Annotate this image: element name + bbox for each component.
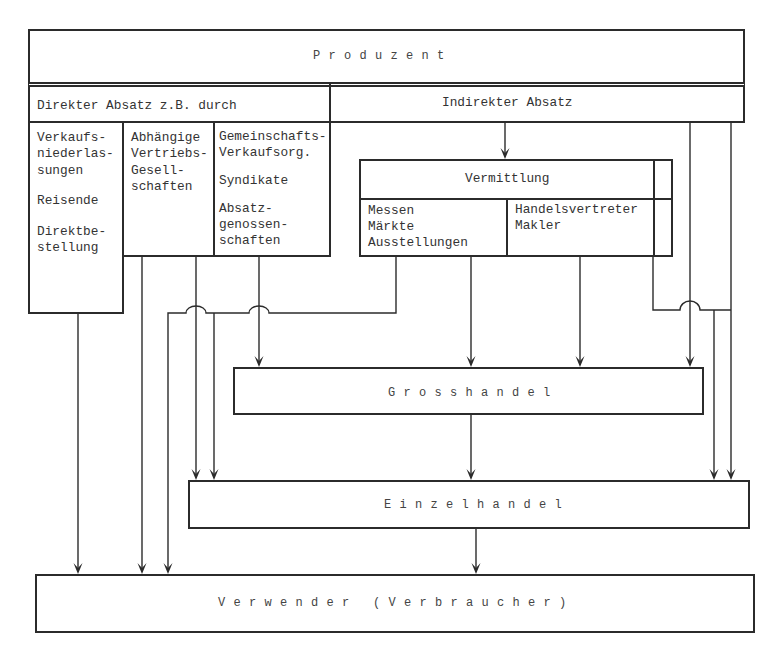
- direct-column-joint-sales-orgs: Gemeinschafts- Verkaufsorg. Syndikate Ab…: [213, 121, 331, 257]
- mediation-events-cell: Messen Märkte Ausstellungen: [361, 200, 508, 255]
- text-group: Direktbe- stellung: [37, 224, 122, 257]
- text-group: Gemeinschafts- Verkaufsorg.: [219, 129, 329, 162]
- arrowhead-icon: [138, 563, 147, 574]
- mediation-side-column: [653, 161, 673, 255]
- wholesale-box: Grosshandel: [233, 367, 704, 415]
- mediation-label: Vermittlung: [465, 171, 549, 187]
- text-group: Abhängige Vertriebs- Gesell- schaften: [131, 130, 213, 195]
- arrowhead-icon: [210, 469, 219, 480]
- text-line: sungen: [37, 163, 122, 179]
- text-line: schaften: [131, 179, 213, 195]
- text-line: Absatz-: [219, 201, 329, 217]
- mediation-agents-cell: Handelsvertreter Makler: [508, 200, 653, 255]
- text-line: genossen-: [219, 217, 329, 233]
- direct-column-sales-branches: Verkaufs- niederlas- sungen Reisende Dir…: [28, 121, 124, 314]
- text-line: Handelsvertreter: [515, 202, 653, 218]
- text-line: Syndikate: [219, 173, 329, 189]
- retail-box: Einzelhandel: [188, 480, 750, 529]
- arrowhead-icon: [74, 563, 83, 574]
- arrowhead-icon: [727, 469, 736, 480]
- text-line: Verkaufs-: [37, 130, 122, 146]
- text-line: Verkaufsorg.: [219, 145, 329, 161]
- direct-column-dependent-companies: Abhängige Vertriebs- Gesell- schaften: [122, 121, 215, 257]
- arrowhead-icon: [686, 356, 695, 367]
- text-group: Reisende: [37, 193, 122, 209]
- direct-sales-label: Direkter Absatz z.B. durch: [37, 98, 237, 114]
- text-line: stellung: [37, 240, 122, 256]
- text-group: Absatz- genossen- schaften: [219, 201, 329, 250]
- arrowhead-icon: [192, 469, 201, 480]
- arrowhead-icon: [710, 469, 719, 480]
- text-line: niederlas-: [37, 146, 122, 162]
- arrowhead-icon: [467, 469, 476, 480]
- arrowhead-icon: [164, 563, 173, 574]
- mediation-box: Vermittlung Messen Märkte Ausstellungen …: [359, 159, 673, 257]
- text-line: Ausstellungen: [368, 235, 506, 251]
- text-line: Reisende: [37, 193, 122, 209]
- text-line: Abhängige: [131, 130, 213, 146]
- arrowhead-icon: [467, 356, 476, 367]
- text-line: schaften: [219, 233, 329, 249]
- wholesale-label: Grosshandel: [388, 385, 559, 401]
- consumer-box: Verwender (Verbraucher): [35, 574, 755, 633]
- mediation-header: Vermittlung: [361, 161, 671, 200]
- connector-line: [653, 257, 731, 310]
- indirect-sales-label: Indirekter Absatz: [442, 95, 573, 111]
- text-line: Makler: [515, 218, 653, 234]
- producer-box: Produzent: [28, 29, 745, 82]
- text-line: Gemeinschafts-: [219, 129, 329, 145]
- text-line: Direktbe-: [37, 224, 122, 240]
- text-group: Syndikate: [219, 173, 329, 189]
- text-line: Vertriebs-: [131, 146, 213, 162]
- indirect-sales-header: Indirekter Absatz: [329, 82, 745, 123]
- producer-label: Produzent: [313, 48, 453, 64]
- arrowhead-icon: [576, 356, 585, 367]
- arrowhead-icon: [255, 356, 264, 367]
- text-line: Märkte: [368, 219, 506, 235]
- consumer-label: Verwender (Verbraucher): [218, 595, 575, 611]
- text-group: Verkaufs- niederlas- sungen: [37, 130, 122, 179]
- arrowhead-icon: [472, 563, 481, 574]
- direct-sales-header: Direkter Absatz z.B. durch: [28, 82, 331, 123]
- text-line: Messen: [368, 203, 506, 219]
- retail-label: Einzelhandel: [384, 497, 570, 513]
- arrowhead-icon: [501, 148, 510, 159]
- text-line: Gesell-: [131, 163, 213, 179]
